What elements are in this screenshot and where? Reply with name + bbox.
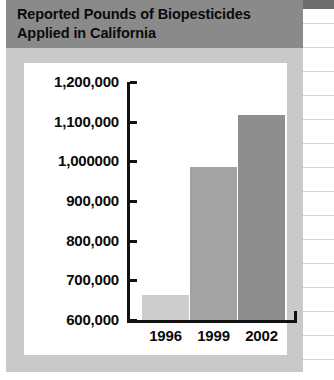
bar-2002	[238, 115, 285, 320]
x-axis-tick-label-1999: 1999	[190, 327, 237, 344]
x-axis-end-cap	[294, 311, 297, 323]
page-title-line-1: Reported Pounds of Biopesticides	[17, 5, 303, 24]
y-axis-tick	[130, 319, 137, 322]
y-axis-tick	[130, 240, 137, 243]
scanned-page: Reported Pounds of Biopesticides Applied…	[0, 0, 334, 380]
x-axis-tick-label-2002: 2002	[238, 327, 285, 344]
chart-panel: 600,000700,000800,000900,0001,0000001,10…	[24, 63, 287, 355]
y-axis-tick-label: 1,200,000	[0, 73, 119, 90]
y-axis-tick-label: 700,000	[0, 271, 119, 288]
chart-figure: Reported Pounds of Biopesticides Applied…	[6, 0, 303, 372]
y-axis-tick-label: 1,100,000	[0, 113, 119, 130]
y-axis-tick	[130, 200, 137, 203]
y-axis-tick	[130, 81, 137, 84]
y-axis-tick	[130, 121, 137, 124]
y-axis-tick-label: 800,000	[0, 232, 119, 249]
bar-1999	[190, 167, 237, 320]
y-axis-tick	[130, 279, 137, 282]
y-axis-tick-label: 600,000	[0, 311, 119, 328]
chart-title-band: Reported Pounds of Biopesticides Applied…	[6, 0, 303, 48]
y-axis-tick	[130, 160, 137, 163]
x-axis-line	[127, 320, 297, 323]
x-axis-tick-label-1996: 1996	[142, 327, 189, 344]
bar-chart-plot: 600,000700,000800,000900,0001,0000001,10…	[24, 63, 287, 355]
bar-1996	[142, 295, 189, 320]
y-axis-tick-label: 1,000000	[0, 152, 119, 169]
y-axis-tick-label: 900,000	[0, 192, 119, 209]
page-title-line-2: Applied in California	[17, 24, 303, 43]
